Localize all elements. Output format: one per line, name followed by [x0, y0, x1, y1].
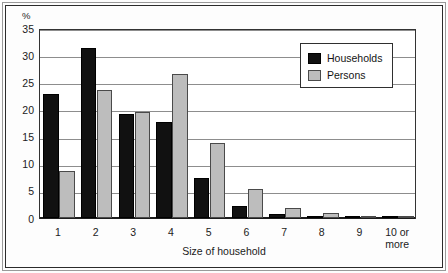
chart-figure: % 05101520253035 12345678910 ormore Size… [0, 0, 448, 273]
bar-households-9 [345, 216, 361, 218]
legend-label-households: Households [327, 53, 382, 64]
bar-households-1 [43, 94, 59, 218]
legend-swatch-persons-icon [308, 70, 321, 81]
bar-persons-3 [135, 112, 151, 218]
y-axis-unit-label: % [22, 10, 30, 21]
bar-households-4 [156, 122, 172, 218]
legend-swatch-households-icon [308, 53, 321, 64]
bar-persons-8 [323, 213, 339, 218]
bar-persons-5 [210, 143, 226, 218]
bar-persons-10-or-more [398, 216, 414, 218]
bar-persons-2 [97, 90, 113, 218]
legend-item-persons: Persons [308, 67, 392, 84]
chart-legend: Households Persons [300, 43, 393, 88]
bar-persons-4 [172, 74, 188, 218]
bar-households-2 [81, 48, 97, 218]
x-axis-title: Size of household [0, 245, 448, 257]
legend-label-persons: Persons [327, 70, 366, 81]
bar-households-8 [307, 216, 323, 218]
bar-households-6 [232, 206, 248, 218]
bar-households-10-or-more [382, 216, 398, 218]
bar-households-3 [119, 114, 135, 218]
bar-persons-9 [361, 216, 377, 218]
bar-persons-1 [59, 171, 75, 218]
gridline [40, 30, 415, 31]
bar-households-5 [194, 178, 210, 218]
bar-households-7 [269, 214, 285, 218]
bar-persons-7 [285, 208, 301, 218]
legend-item-households: Households [308, 50, 392, 67]
bar-persons-6 [248, 189, 264, 218]
